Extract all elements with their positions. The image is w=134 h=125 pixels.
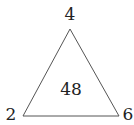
vertex-bottom-left-label: 2 [6, 104, 17, 124]
triangle-outline [23, 29, 119, 116]
vertex-bottom-right-label: 6 [123, 104, 134, 124]
triangle-diagram: 4 2 6 48 [0, 0, 134, 125]
vertex-top-label: 4 [65, 4, 76, 24]
center-value-label: 48 [60, 79, 82, 99]
